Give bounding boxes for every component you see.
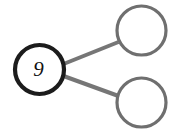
- child-node-bottom[interactable]: [117, 78, 166, 127]
- child-node-top[interactable]: [117, 6, 166, 55]
- diagram-canvas: 9: [0, 0, 175, 131]
- child-node-bottom-circle[interactable]: [117, 78, 166, 127]
- child-node-top-circle[interactable]: [117, 6, 166, 55]
- root-node-label: 9: [33, 57, 44, 81]
- root-node[interactable]: 9: [15, 45, 64, 94]
- graph-svg: 9: [0, 0, 175, 131]
